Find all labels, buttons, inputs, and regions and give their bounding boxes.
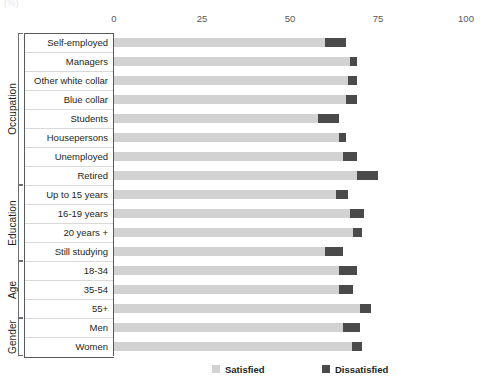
legend-label-satisfied: Satisfied [225,364,265,375]
bar-segment-dissatisfied[interactable] [318,114,339,123]
chart-row[interactable]: 20 years + [0,223,490,242]
legend-item-dissatisfied[interactable]: Dissatisfied [322,361,388,377]
bar-segment-satisfied[interactable] [114,323,343,332]
bar-segment-satisfied[interactable] [114,133,339,142]
bar-segment-dissatisfied[interactable] [353,228,362,237]
row-label: Retired [24,166,112,185]
category-group-age: Age18-3435-5455+ [0,261,490,318]
bar-track [114,152,470,161]
row-label: Other white collar [24,71,112,90]
row-label: Up to 15 years [24,185,112,204]
bar-track [114,76,470,85]
row-label: Men [24,318,112,337]
bar-segment-satisfied[interactable] [114,76,348,85]
bar-segment-dissatisfied[interactable] [350,209,364,218]
chart-row[interactable]: Blue collar [0,90,490,109]
bar-track [114,57,470,66]
chart-row[interactable]: 18-34 [0,261,490,280]
chart-row[interactable]: Women [0,337,490,356]
bar-segment-satisfied[interactable] [114,285,339,294]
row-label: Unemployed [24,147,112,166]
bar-segment-dissatisfied[interactable] [339,266,357,275]
bar-segment-dissatisfied[interactable] [357,171,378,180]
bar-segment-dissatisfied[interactable] [352,342,363,351]
bar-track [114,133,470,142]
bar-segment-satisfied[interactable] [114,304,360,313]
chart-row[interactable]: Retired [0,166,490,185]
chart-row[interactable]: 16-19 years [0,204,490,223]
category-group-education: EducationUp to 15 years16-19 years20 yea… [0,185,490,261]
chart-row[interactable]: 55+ [0,299,490,318]
bar-segment-satisfied[interactable] [114,247,325,256]
bar-segment-satisfied[interactable] [114,114,318,123]
bar-segment-satisfied[interactable] [114,95,346,104]
chart-row[interactable]: Unemployed [0,147,490,166]
bar-segment-dissatisfied[interactable] [348,76,357,85]
bar-track [114,342,470,351]
x-axis-tick-75: 75 [373,13,384,24]
bar-segment-satisfied[interactable] [114,190,336,199]
category-group-occupation: OccupationSelf-employedManagersOther whi… [0,33,490,185]
bar-track [114,95,470,104]
bar-track [114,190,470,199]
bar-segment-dissatisfied[interactable] [339,285,353,294]
chart-row[interactable]: Self-employed [0,33,490,52]
bar-segment-dissatisfied[interactable] [350,57,357,66]
bar-track [114,323,470,332]
bar-track [114,266,470,275]
legend-swatch-satisfied-icon [212,365,220,373]
row-label: 16-19 years [24,204,112,223]
x-axis-tick-0: 0 [111,13,116,24]
row-label: Self-employed [24,33,112,52]
bar-segment-dissatisfied[interactable] [343,323,361,332]
row-label: 18-34 [24,261,112,280]
bar-track [114,114,470,123]
bar-segment-satisfied[interactable] [114,57,350,66]
bar-track [114,228,470,237]
chart-row[interactable]: Men [0,318,490,337]
chart-legend: Satisfied Dissatisfied [0,361,490,377]
row-label: 20 years + [24,223,112,242]
bar-segment-satisfied[interactable] [114,209,350,218]
x-axis-tick-25: 25 [197,13,208,24]
chart-row[interactable]: Students [0,109,490,128]
row-label: Blue collar [24,90,112,109]
bar-segment-dissatisfied[interactable] [336,190,348,199]
row-label: Students [24,109,112,128]
bar-track [114,285,470,294]
row-label: 55+ [24,299,112,318]
chart-row[interactable]: 35-54 [0,280,490,299]
bar-segment-satisfied[interactable] [114,152,343,161]
bar-segment-dissatisfied[interactable] [343,152,357,161]
plot-area: OccupationSelf-employedManagersOther whi… [0,33,490,358]
chart-row[interactable]: Up to 15 years [0,185,490,204]
chart-row[interactable]: Managers [0,52,490,71]
row-label: Still studying [24,242,112,261]
legend-item-satisfied[interactable]: Satisfied [212,361,265,377]
bar-segment-dissatisfied[interactable] [325,247,343,256]
chart-row[interactable]: Still studying [0,242,490,261]
bar-segment-dissatisfied[interactable] [360,304,371,313]
bar-segment-satisfied[interactable] [114,266,339,275]
legend-label-dissatisfied: Dissatisfied [335,364,388,375]
row-label: Managers [24,52,112,71]
chart-row[interactable]: Other white collar [0,71,490,90]
x-axis-tick-50: 50 [285,13,296,24]
bar-segment-satisfied[interactable] [114,38,325,47]
bar-track [114,247,470,256]
bar-track [114,171,470,180]
chart-row[interactable]: Housepersons [0,128,490,147]
stacked-bar-chart: (%) 0255075100 OccupationSelf-employedMa… [0,0,490,383]
legend-swatch-dissatisfied-icon [322,365,330,373]
bar-segment-dissatisfied[interactable] [346,95,357,104]
unit-label: (%) [4,0,19,8]
row-label: Housepersons [24,128,112,147]
bar-segment-dissatisfied[interactable] [325,38,346,47]
bar-segment-satisfied[interactable] [114,171,357,180]
bar-segment-satisfied[interactable] [114,342,352,351]
x-axis-tick-labels: 0255075100 [0,13,490,27]
row-label: Women [24,337,112,356]
bar-segment-dissatisfied[interactable] [339,133,346,142]
category-group-gender: GenderMenWomen [0,318,490,356]
bar-segment-satisfied[interactable] [114,228,353,237]
